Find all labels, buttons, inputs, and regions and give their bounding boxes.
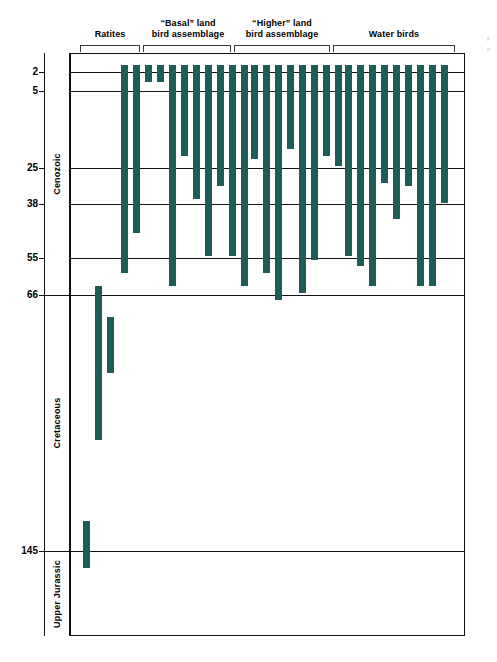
range-bar <box>145 65 152 82</box>
range-bar <box>335 65 342 165</box>
range-bar <box>229 65 236 256</box>
range-bar <box>357 65 364 266</box>
range-bar <box>107 317 114 374</box>
range-bar <box>287 65 294 149</box>
range-bar <box>169 65 176 286</box>
range-bar <box>381 65 388 182</box>
range-bar <box>299 65 306 293</box>
range-bar <box>323 65 330 155</box>
range-bar <box>263 65 270 273</box>
range-bar <box>241 65 248 286</box>
edge-note-line2: o <box>487 46 497 52</box>
range-bar <box>121 65 128 273</box>
range-bar <box>441 65 448 202</box>
range-bars-layer <box>0 0 497 662</box>
range-bar <box>251 65 258 159</box>
range-bar <box>417 65 424 286</box>
range-bar <box>133 65 140 232</box>
range-bar <box>193 65 200 199</box>
range-bar <box>157 65 164 82</box>
range-bar <box>181 65 188 155</box>
range-bar <box>83 521 90 568</box>
range-chart-figure: Ratites “Basal” land bird assemblage “Hi… <box>0 0 497 662</box>
range-bar <box>95 286 102 440</box>
range-bar <box>405 65 412 186</box>
range-bar <box>275 65 282 299</box>
range-bar <box>311 65 318 259</box>
edge-note-line1: F <box>487 36 497 42</box>
range-bar <box>393 65 400 219</box>
range-bar <box>369 213 376 273</box>
range-bar <box>205 65 212 256</box>
range-bar <box>217 65 224 186</box>
range-bar <box>345 65 352 256</box>
range-bar <box>429 65 436 286</box>
